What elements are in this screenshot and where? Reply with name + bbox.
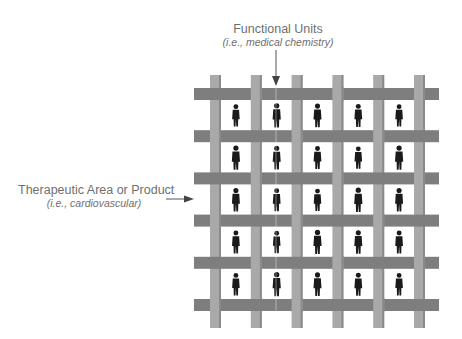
person-icon: [273, 272, 281, 296]
vertical-bar-edge: [382, 75, 384, 328]
weave-crossing-edge: [382, 129, 384, 143]
person-icon: [232, 104, 240, 126]
person-icon: [395, 273, 403, 295]
weave-crossing-edge: [341, 87, 343, 101]
person-icon: [314, 272, 322, 296]
weave-crossing-edge: [260, 87, 262, 101]
horizontal-bar: [194, 299, 439, 311]
horizontal-bar: [194, 88, 439, 100]
person-icon: [232, 188, 240, 212]
weave-crossing-edge: [341, 171, 343, 185]
person-icon: [273, 146, 281, 170]
down-arrow-icon: [272, 50, 280, 86]
horizontal-bar: [194, 172, 439, 184]
person-icon: [273, 231, 281, 253]
weave-crossing-edge: [301, 214, 303, 228]
matrix-grid: [0, 0, 462, 339]
person-icon: [395, 104, 403, 126]
person-icon: [314, 146, 322, 169]
person-icon: [273, 103, 281, 127]
horizontal-bar: [194, 130, 439, 142]
person-icon: [395, 188, 403, 212]
weave-crossing-edge: [382, 214, 384, 228]
weave-crossing-edge: [301, 298, 303, 312]
horizontal-bar: [194, 215, 439, 227]
weave-crossing-edge: [260, 171, 262, 185]
person-icon: [354, 230, 362, 254]
person-icon: [232, 145, 240, 169]
weave-crossing-edge: [382, 298, 384, 312]
horizontal-bar: [194, 257, 439, 269]
person-icon: [395, 145, 403, 169]
vertical-bar-edge: [219, 75, 221, 328]
vertical-bar-edge: [423, 75, 425, 328]
right-arrow-icon: [166, 196, 194, 203]
person-icon: [313, 230, 321, 254]
weave-crossing-edge: [219, 129, 221, 143]
person-icon: [314, 104, 322, 128]
vertical-bar-edge: [301, 75, 303, 328]
weave-crossing-edge: [423, 87, 425, 101]
weave-crossing-edge: [219, 298, 221, 312]
person-icon: [273, 188, 281, 211]
person-icon: [354, 104, 362, 127]
person-icon: [232, 230, 240, 253]
person-icon: [314, 189, 322, 211]
weave-crossing-edge: [260, 256, 262, 270]
weave-crossing-edge: [423, 171, 425, 185]
weave-crossing-edge: [219, 214, 221, 228]
person-icon: [354, 273, 362, 296]
vertical-bar-edge: [341, 75, 343, 328]
person-icon: [395, 230, 403, 253]
vertical-bar-edge: [260, 75, 262, 328]
person-icon: [354, 188, 362, 212]
person-icon: [355, 146, 363, 168]
weave-crossing-edge: [423, 256, 425, 270]
weave-crossing-edge: [341, 256, 343, 270]
person-icon: [232, 273, 240, 295]
weave-crossing-edge: [301, 129, 303, 143]
